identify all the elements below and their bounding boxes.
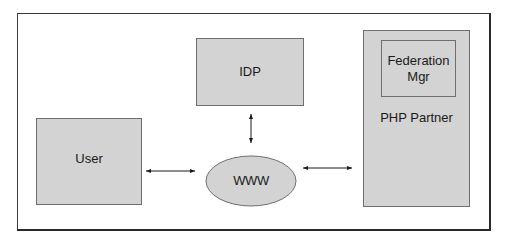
www-label: WWW	[206, 173, 296, 188]
connectors-layer	[0, 0, 507, 245]
